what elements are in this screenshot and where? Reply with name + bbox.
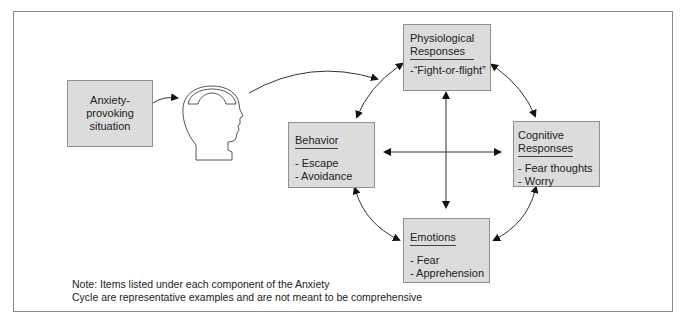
physiological-box: Physiological Responses -“Fight-or-fligh… xyxy=(403,24,491,91)
physiological-title-line-2: Responses xyxy=(410,45,465,57)
behavior-item: - Escape xyxy=(295,157,374,170)
cognitive-item: - Worry xyxy=(518,175,599,188)
behavior-title: Behavior xyxy=(295,134,338,149)
emotions-item: - Fear xyxy=(410,254,489,267)
trigger-box: Anxiety- provoking situation xyxy=(67,80,153,147)
cognitive-title-line-2: Responses xyxy=(518,142,573,154)
physiological-title-line-1: Physiological xyxy=(410,32,474,44)
cognitive-box: Cognitive Responses - Fear thoughts - Wo… xyxy=(513,121,600,187)
behavior-box: Behavior - Escape - Avoidance xyxy=(288,122,375,188)
footnote-line-2: Cycle are representative examples and ar… xyxy=(72,291,422,304)
footnote: Note: Items listed under each component … xyxy=(72,278,422,304)
arrow-behavior-emotions xyxy=(356,192,399,240)
emotions-box: Emotions - Fear - Apprehension xyxy=(403,218,490,283)
trigger-line-3: situation xyxy=(86,120,134,133)
arrow-cognitive-emotions xyxy=(494,191,535,240)
head-profile-icon xyxy=(183,86,243,160)
footnote-line-1: Note: Items listed under each component … xyxy=(72,278,422,291)
arrow-trigger-to-head xyxy=(153,98,177,103)
arrow-head-to-physiological xyxy=(249,71,377,93)
cognitive-title: Cognitive Responses xyxy=(518,129,573,157)
trigger-line-2: provoking xyxy=(86,107,134,120)
trigger-line-1: Anxiety- xyxy=(86,94,134,107)
physiological-title: Physiological Responses xyxy=(410,32,474,60)
cognitive-item: - Fear thoughts xyxy=(518,162,599,175)
arrow-physiological-cognitive xyxy=(495,67,535,116)
arrow-physiological-behavior xyxy=(357,66,399,117)
emotions-title: Emotions xyxy=(410,231,456,246)
cognitive-title-line-1: Cognitive xyxy=(518,129,564,141)
physiological-item: -“Fight-or-flight” xyxy=(410,64,490,77)
behavior-item: - Avoidance xyxy=(295,170,374,183)
